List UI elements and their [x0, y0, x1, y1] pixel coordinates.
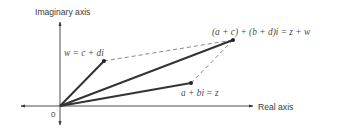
imaginary-axis-label: Imaginary axis — [35, 7, 90, 17]
point-z — [189, 81, 193, 85]
dashed-z-to-sum — [191, 40, 233, 83]
point-w — [102, 59, 106, 63]
origin-label: 0 — [51, 110, 56, 119]
point-z-label: a + bi = z — [181, 88, 219, 98]
complex-addition-diagram: Imaginary axis Real axis 0 w = c + di (a… — [0, 0, 344, 135]
point-sum-label: (a + c) + (b + d)i = z + w — [212, 27, 311, 38]
point-w-label: w = c + di — [64, 48, 104, 58]
real-axis-label: Real axis — [258, 102, 293, 112]
point-sum — [231, 38, 235, 42]
dashed-w-to-sum — [104, 40, 233, 61]
